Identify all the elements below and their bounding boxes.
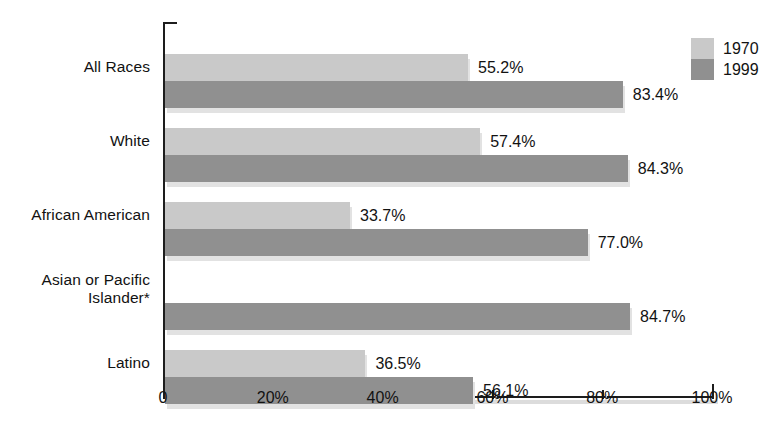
bar-1970-latino [165, 350, 365, 377]
bar-1970-white [165, 128, 480, 155]
bar-value-label: 33.7% [360, 202, 405, 229]
x-axis-tick-label: 40% [367, 389, 399, 407]
x-axis-tick-label: 0 [159, 389, 168, 407]
bar-value-label: 84.3% [638, 155, 683, 182]
bar-value-label: 77.0% [598, 229, 643, 256]
bar-value-label: 83.4% [633, 81, 678, 108]
plot-area: 55.2%83.4%57.4%84.3%33.7%77.0%84.7%36.5%… [163, 22, 723, 392]
x-axis-tick-label: 80% [586, 389, 618, 407]
bar-1999-white [165, 155, 628, 182]
legend-item-1970: 1970 [691, 38, 768, 59]
bar-1999-all-races [165, 81, 623, 108]
x-axis-tick-label: 60% [476, 389, 508, 407]
legend-swatch-1999 [691, 59, 714, 80]
category-label-white: White [110, 132, 150, 150]
legend-label-1999: 1999 [723, 59, 759, 80]
bar-value-label: 84.7% [640, 303, 685, 330]
bar-1970-african-american [165, 202, 350, 229]
bar-value-label: 55.2% [478, 54, 523, 81]
x-axis-tick-label: 20% [257, 389, 289, 407]
legend-swatch-1970 [691, 38, 714, 59]
bar-value-label: 57.4% [490, 128, 535, 155]
category-label-all-races: All Races [84, 58, 150, 76]
bar-1999-african-american [165, 229, 588, 256]
category-label-asian-or-pacific-islander: Asian or Pacific Islander* [42, 271, 150, 306]
bar-value-label: 36.5% [375, 350, 420, 377]
category-label-latino: Latino [107, 354, 150, 372]
x-axis-tick-label: 100% [692, 389, 733, 407]
category-label-african-american: African American [31, 206, 150, 224]
bar-1999-latino [165, 377, 473, 404]
bar-chart: All Races White African American Asian o… [0, 0, 768, 441]
legend-item-1999: 1999 [691, 59, 768, 80]
bar-1999-asian-or-pacific-islander- [165, 303, 630, 330]
legend: 1970 1999 [691, 38, 768, 80]
bar-1970-all-races [165, 54, 468, 81]
y-axis-top-nub [163, 22, 177, 24]
legend-label-1970: 1970 [723, 38, 759, 59]
